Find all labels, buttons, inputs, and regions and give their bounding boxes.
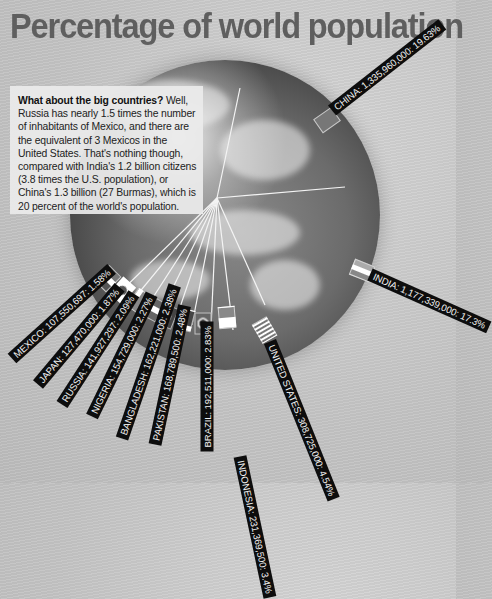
info-box-body: Well, Russia has nearly 1.5 times the nu… xyxy=(18,95,196,212)
info-box: What about the big countries? Well, Russ… xyxy=(10,86,203,214)
brazil-label: BRAZIL: 192,511,000: 2.83% xyxy=(201,322,214,452)
info-box-lead: What about the big countries? xyxy=(18,95,163,106)
indonesia-flag-icon xyxy=(218,306,237,329)
